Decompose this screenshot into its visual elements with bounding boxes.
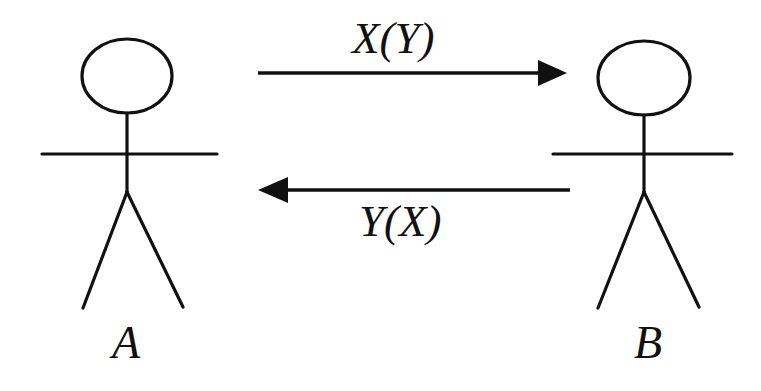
actor-a-leg-right <box>127 192 183 307</box>
message-bottom-label: Y(X) <box>359 199 442 244</box>
message-bottom-arrow-head-icon <box>258 177 288 203</box>
message-top-label: X(Y) <box>352 16 435 61</box>
actor-b-figure <box>553 41 732 308</box>
actor-b-head-icon <box>598 41 690 115</box>
message-top-arrow <box>258 60 567 86</box>
actor-b-label: B <box>634 320 662 366</box>
actor-a-leg-left <box>83 192 127 308</box>
actor-b-leg-right <box>644 192 699 307</box>
message-top-arrow-head-icon <box>538 60 567 86</box>
actor-a-label: A <box>112 320 140 366</box>
actor-b-leg-left <box>598 192 644 308</box>
diagram-canvas: X(Y) Y(X) A B <box>0 0 761 391</box>
actor-a-figure <box>42 39 217 308</box>
actor-a-head-icon <box>82 39 172 113</box>
